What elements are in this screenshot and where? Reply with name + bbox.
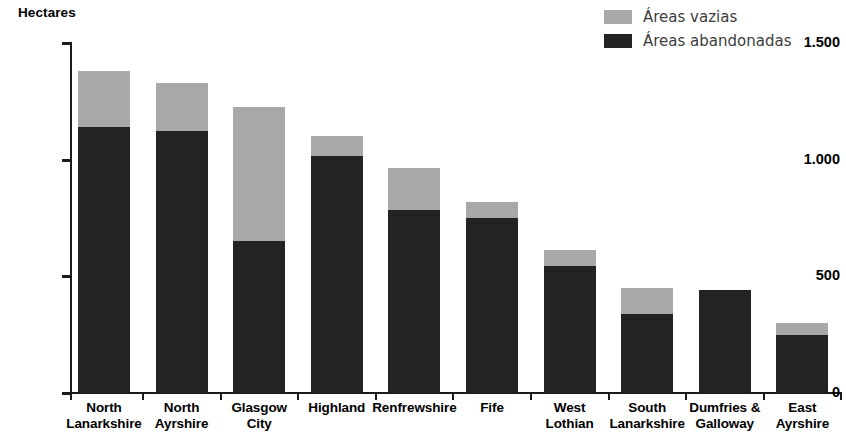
x-category-label-line: Ayrshire [747, 416, 846, 432]
x-tick-mark [220, 392, 222, 400]
bar-segment-vazias [78, 71, 130, 127]
bar-segment-abandonadas [776, 335, 828, 393]
y-tick-mark [62, 275, 72, 278]
bar [621, 288, 673, 393]
bar-segment-abandonadas [621, 314, 673, 393]
bar-segment-vazias [233, 107, 285, 241]
bar-segment-abandonadas [544, 266, 596, 393]
x-category-label: EastAyrshire [747, 400, 846, 432]
bar-segment-vazias [388, 168, 440, 210]
x-tick-mark [297, 392, 299, 400]
x-tick-mark [452, 392, 454, 400]
x-category-label-line: East [747, 400, 846, 416]
bar [78, 71, 130, 393]
bar-segment-abandonadas [156, 131, 208, 394]
bar-segment-vazias [776, 323, 828, 335]
bar-segment-vazias [621, 288, 673, 314]
bar [233, 107, 285, 393]
y-tick-label: 1.500 [784, 35, 840, 50]
bar [466, 202, 518, 393]
bar-segment-vazias [311, 136, 363, 156]
x-tick-mark [840, 392, 842, 400]
x-category-label-line: City [204, 416, 314, 432]
bar-segment-abandonadas [699, 290, 751, 393]
bar [311, 136, 363, 393]
bar [699, 290, 751, 393]
y-tick-mark [62, 159, 72, 162]
y-axis-line [70, 43, 72, 394]
bar-segment-abandonadas [311, 156, 363, 393]
bar-segment-vazias [544, 250, 596, 266]
bar [388, 168, 440, 393]
bar-segment-vazias [156, 83, 208, 131]
y-tick-mark [62, 42, 72, 45]
x-tick-mark [685, 392, 687, 400]
y-tick-label: 500 [784, 268, 840, 283]
bar-segment-abandonadas [388, 210, 440, 393]
x-tick-mark [608, 392, 610, 400]
bar-segment-abandonadas [78, 127, 130, 393]
bar-segment-abandonadas [466, 218, 518, 393]
x-tick-mark [375, 392, 377, 400]
x-tick-mark [530, 392, 532, 400]
bar [544, 250, 596, 393]
bar-segment-abandonadas [233, 241, 285, 393]
x-tick-mark [142, 392, 144, 400]
bar [156, 83, 208, 393]
bar-segment-vazias [466, 202, 518, 218]
x-tick-mark-origin [70, 392, 72, 400]
x-tick-mark [763, 392, 765, 400]
y-tick-label: 1.000 [784, 152, 840, 167]
bar [776, 323, 828, 393]
